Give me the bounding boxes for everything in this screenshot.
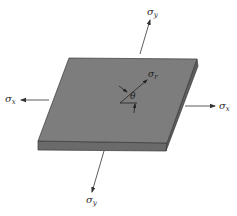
- sigma-y-top-label: σy: [147, 7, 158, 19]
- sigma-x-left-label: σx: [5, 94, 16, 106]
- sigma-symbol: σ: [86, 194, 93, 205]
- sigma-y-bottom-label: σy: [86, 195, 97, 207]
- sigma-symbol: σ: [219, 100, 226, 111]
- subscript: r: [154, 73, 157, 81]
- subscript: y: [93, 199, 97, 207]
- sigma-symbol: σ: [147, 6, 154, 17]
- subscript: x: [12, 98, 16, 106]
- diagram-canvas: [0, 0, 237, 216]
- sigma-r-label: σr: [148, 70, 158, 81]
- sigma-symbol: σ: [5, 93, 12, 104]
- subscript: x: [226, 105, 230, 113]
- theta-label: θ: [130, 92, 135, 101]
- sigma-y-top-arrow: [140, 20, 150, 54]
- sigma-x-right-label: σx: [219, 101, 230, 113]
- stress-plate-diagram: σy σx σx σy σr θ: [0, 0, 237, 216]
- sigma-y-bottom-arrow: [92, 151, 104, 192]
- subscript: y: [154, 11, 158, 19]
